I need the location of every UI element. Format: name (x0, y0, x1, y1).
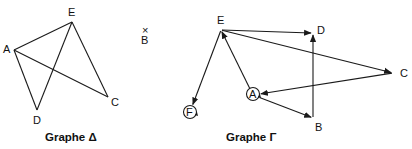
edge-E-C (72, 22, 108, 97)
vertex-label-A: A (3, 43, 11, 55)
edge-A-E (222, 32, 250, 89)
vertex-label-C: C (400, 67, 408, 79)
edge-D-E (37, 22, 72, 110)
edge-C-A (261, 73, 392, 94)
edge-A-D (14, 50, 37, 110)
vertex-label-E: E (68, 6, 75, 18)
vertex-label-D: D (317, 24, 325, 36)
vertex-label-B: B (315, 121, 322, 133)
caption-graphe-gamma: Graphe Γ (226, 131, 276, 143)
vertex-label-E: E (217, 14, 224, 26)
edge-A-E (14, 22, 72, 50)
graph-delta: AECD×B (3, 6, 148, 126)
vertex-label-B: B (141, 34, 148, 46)
edge-A-C (14, 50, 108, 97)
edge-E-F (193, 31, 221, 105)
vertex-label-D: D (33, 114, 41, 126)
caption-graphe-delta: Graphe Δ (45, 131, 97, 143)
edge-E-D (222, 30, 311, 33)
edge-A-B (260, 98, 312, 118)
edge-E-C (222, 30, 391, 72)
vertex-label-A: A (249, 88, 257, 100)
vertex-label-F: F (186, 106, 193, 118)
graph-diagram: AECD×B EDCABF Graphe Δ Graphe Γ (0, 0, 412, 149)
vertex-label-C: C (111, 96, 119, 108)
graph-gamma: EDCABF (184, 14, 409, 133)
